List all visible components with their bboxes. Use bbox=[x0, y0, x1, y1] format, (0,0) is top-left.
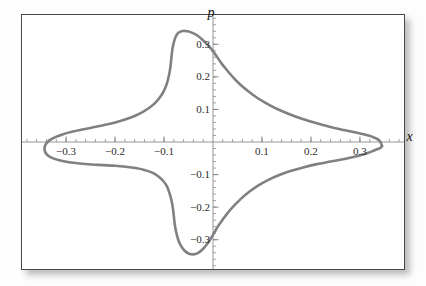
figure-stage: −0.3−0.2−0.10.10.20.30.30.20.1−0.1−0.2−0… bbox=[0, 0, 426, 286]
x-tick-label: −0.2 bbox=[102, 146, 128, 157]
y-axis-name: p bbox=[207, 6, 214, 20]
y-tick-label: −0.2 bbox=[183, 202, 210, 213]
y-tick-label: 0.2 bbox=[183, 71, 210, 82]
x-tick-label: 0.2 bbox=[298, 146, 324, 157]
y-tick-label: −0.3 bbox=[183, 234, 210, 245]
x-tick-label: −0.3 bbox=[53, 146, 79, 157]
plot-frame: −0.3−0.2−0.10.10.20.30.30.20.1−0.1−0.2−0… bbox=[21, 14, 405, 270]
y-tick-label: −0.1 bbox=[183, 169, 210, 180]
x-axis-name: x bbox=[406, 130, 412, 144]
x-tick-label: 0.1 bbox=[249, 146, 275, 157]
y-tick-label: 0.1 bbox=[183, 104, 210, 115]
x-tick-label: −0.1 bbox=[151, 146, 177, 157]
x-tick-label: 0.3 bbox=[347, 146, 373, 157]
y-tick-label: 0.3 bbox=[183, 39, 210, 50]
phase-space-plot bbox=[22, 15, 404, 269]
